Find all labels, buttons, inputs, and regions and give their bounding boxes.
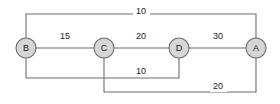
edge-c-a-weight: 20 bbox=[213, 81, 223, 91]
node-b[interactable]: B bbox=[16, 38, 36, 58]
graph-diagram: 15 20 30 10 10 20 B C D A bbox=[0, 0, 280, 104]
node-d[interactable]: D bbox=[169, 38, 189, 58]
edge-b-c-weight: 15 bbox=[60, 31, 70, 41]
edge-b-a-weight: 10 bbox=[136, 6, 146, 16]
node-b-label: B bbox=[23, 43, 29, 53]
edge-b-d-path bbox=[26, 58, 179, 78]
edge-b-d-weight: 10 bbox=[136, 66, 146, 76]
edge-d-a-weight: 30 bbox=[213, 31, 223, 41]
edge-c-a-path bbox=[104, 58, 256, 92]
node-c[interactable]: C bbox=[94, 38, 114, 58]
graph-canvas: 15 20 30 10 10 20 B C D A bbox=[0, 0, 280, 104]
node-a-label: A bbox=[253, 43, 259, 53]
node-c-label: C bbox=[101, 43, 108, 53]
node-d-label: D bbox=[176, 43, 183, 53]
edge-c-d-weight: 20 bbox=[136, 31, 146, 41]
node-a[interactable]: A bbox=[246, 38, 266, 58]
